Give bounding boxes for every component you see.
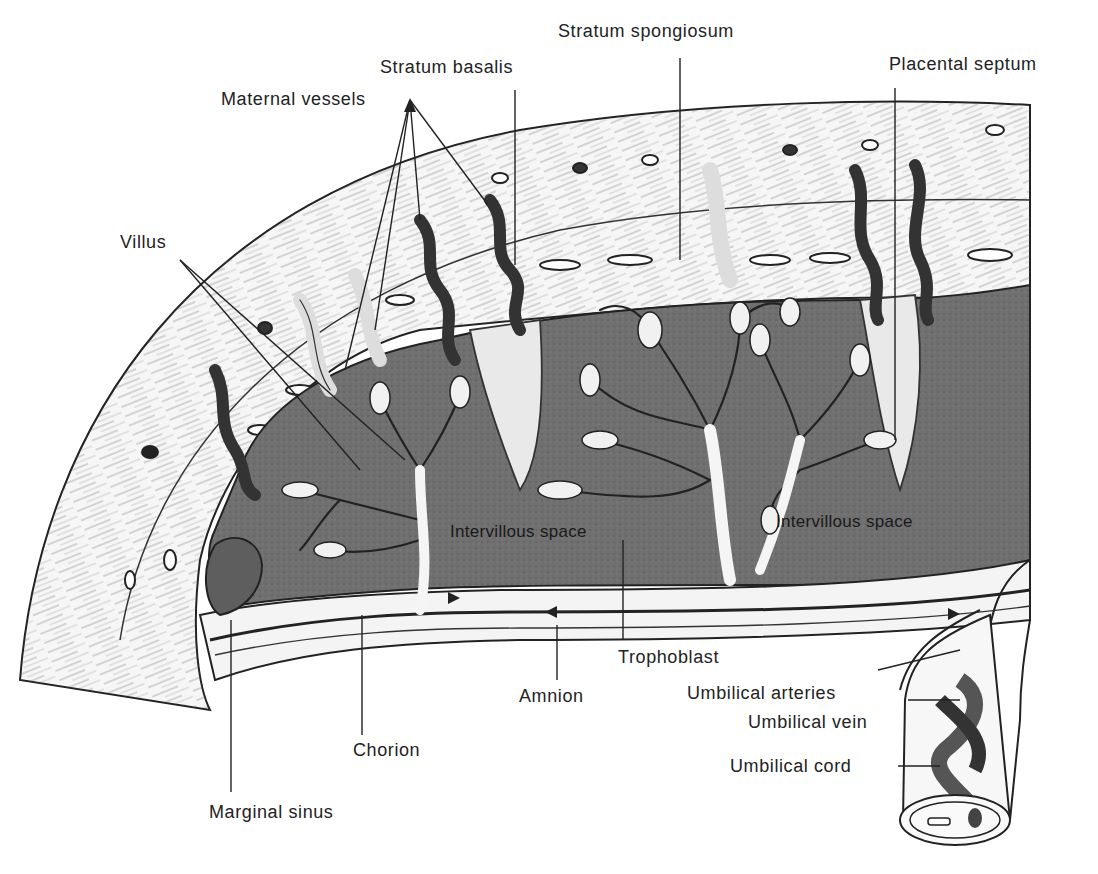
label-maternal-vessels: Maternal vessels: [221, 90, 366, 108]
label-amnion: Amnion: [519, 687, 584, 705]
label-chorion: Chorion: [353, 741, 420, 759]
label-placental-septum: Placental septum: [889, 55, 1037, 73]
label-intervillous-space-right: Intervillous space: [776, 513, 913, 530]
label-stratum-spongiosum: Stratum spongiosum: [558, 22, 734, 40]
placenta-diagram: [0, 0, 1098, 874]
label-trophoblast: Trophoblast: [618, 648, 719, 666]
label-umbilical-arteries: Umbilical arteries: [687, 684, 836, 702]
label-villus: Villus: [120, 233, 166, 251]
label-umbilical-cord: Umbilical cord: [730, 757, 851, 775]
label-marginal-sinus: Marginal sinus: [209, 803, 333, 821]
label-stratum-basalis: Stratum basalis: [380, 58, 513, 76]
label-intervillous-space-left: Intervillous space: [450, 523, 587, 540]
label-umbilical-vein: Umbilical vein: [748, 713, 867, 731]
